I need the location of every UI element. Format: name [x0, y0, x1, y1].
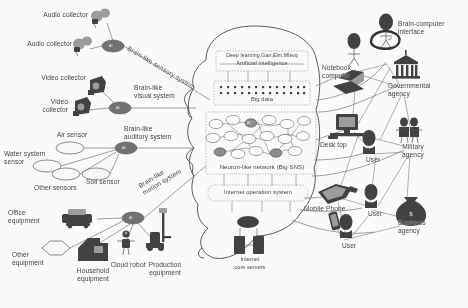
- user-2-icon: [365, 184, 378, 208]
- label-video-collector-1: Video collector: [14, 74, 86, 82]
- svg-text:$: $: [409, 210, 413, 218]
- governmental-agency-icon: [392, 50, 420, 79]
- label-water-system-sensor: Water system sensor: [4, 150, 64, 165]
- label-user-3: User: [342, 242, 368, 250]
- label-video-collector-2: Video collector: [6, 98, 68, 113]
- label-user-2: User: [368, 210, 394, 218]
- brain-ai-node-label: AI: [247, 121, 251, 125]
- label-mobile-phone: Mobile Phone: [304, 205, 358, 213]
- cloud-robot-icon: [117, 230, 135, 255]
- mobile-phone-icon: [328, 211, 341, 231]
- label-governmental-agency: Governmental agency: [388, 82, 450, 97]
- label-brain-like-auditory-system: Brain-like auditory system: [124, 125, 200, 140]
- video-collector-2-icon: [73, 97, 91, 116]
- desk-top-icon: [328, 114, 364, 139]
- audio-collector-2-icon: [73, 37, 92, 57]
- label-office-equipment: Office equipment: [8, 209, 56, 224]
- label-neuron-like-network: Neuron-like network (Big SNS): [206, 164, 318, 172]
- user-3-icon: [340, 214, 353, 238]
- hub-label-motion: AI: [129, 216, 133, 220]
- label-business-agency: Business agency: [398, 219, 446, 234]
- label-user-1: User: [366, 156, 392, 164]
- label-brain-like-visual-system: Brain-like visual system: [134, 84, 206, 99]
- label-deep-learning: Deep learning,Gan,Elm,Mlsvq: [214, 52, 310, 60]
- brain-computer-interface-icon: [371, 14, 399, 49]
- ar-glasses-icon: [318, 184, 358, 204]
- label-big-data: Big data: [224, 96, 300, 104]
- label-internet-core-servers: Internet core servers: [222, 256, 278, 271]
- hub-label-visual: AI: [116, 106, 120, 110]
- user-1-icon: [363, 130, 376, 154]
- label-production-equipment: Production equipment: [140, 261, 190, 276]
- figure-canvas: $ Audio collector Audio collector Video …: [0, 0, 468, 308]
- label-desk-top: Desk top: [320, 141, 360, 149]
- hub-label-auditory: AI: [122, 146, 126, 150]
- label-household-equipment: Household equipment: [64, 267, 122, 282]
- audio-collector-1-icon: [91, 9, 110, 29]
- label-other-sensors: Other sensors: [34, 184, 96, 192]
- label-internet-operation-system: Internet operation system: [210, 189, 306, 197]
- production-equipment-icon: [146, 208, 171, 251]
- neuron-network-box: [206, 112, 316, 186]
- notebook-computer-person-icon: [348, 33, 361, 66]
- label-artificial-intelligence: Artificial intelligence: [214, 60, 310, 68]
- label-audio-collector-2: Audio collector: [0, 40, 72, 48]
- label-military-agency: Military agency: [392, 143, 434, 158]
- office-equipment-icon: [62, 209, 92, 228]
- internet-core-servers: [234, 216, 264, 254]
- hub-label-sensory: AI: [109, 44, 113, 48]
- label-notebook-computer: Notebook computer: [322, 64, 362, 79]
- label-audio-collector-1: Audio collector: [16, 11, 88, 19]
- label-air-sensor: Air sensor: [46, 131, 98, 139]
- label-brain-computer-interface: Brain-computer interface: [398, 20, 464, 35]
- label-other-equipment: Other equipment: [12, 251, 60, 266]
